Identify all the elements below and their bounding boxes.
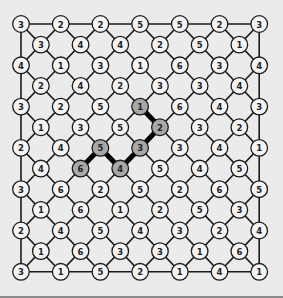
node-number: 6 — [217, 185, 223, 195]
number-node[interactable]: 2 — [172, 181, 189, 198]
number-node[interactable]: 3 — [251, 98, 268, 115]
number-node[interactable]: 4 — [211, 264, 228, 281]
number-node[interactable]: 5 — [112, 119, 129, 136]
node-number: 2 — [58, 102, 64, 112]
number-node[interactable]: 6 — [172, 57, 189, 74]
number-node[interactable]: 2 — [92, 16, 109, 33]
number-node[interactable]: 5 — [132, 181, 149, 198]
node-number: 5 — [256, 185, 262, 195]
number-node[interactable]: 4 — [191, 160, 208, 177]
node-number: 2 — [97, 185, 103, 195]
number-node[interactable]: 4 — [211, 140, 228, 157]
number-node[interactable]: 4 — [251, 57, 268, 74]
number-node[interactable]: 3 — [251, 16, 268, 33]
number-node[interactable]: 1 — [231, 36, 248, 53]
number-node[interactable]: 6 — [52, 181, 69, 198]
path-node[interactable]: 5 — [92, 140, 109, 157]
number-node[interactable]: 2 — [231, 119, 248, 136]
number-node[interactable]: 4 — [72, 78, 89, 95]
number-node[interactable]: 1 — [52, 57, 69, 74]
number-node[interactable]: 4 — [33, 160, 50, 177]
number-node[interactable]: 5 — [92, 98, 109, 115]
path-node[interactable]: 4 — [112, 160, 129, 177]
number-node[interactable]: 1 — [132, 57, 149, 74]
number-node[interactable]: 5 — [152, 160, 169, 177]
number-node[interactable]: 4 — [112, 36, 129, 53]
number-node[interactable]: 3 — [172, 222, 189, 239]
number-node[interactable]: 1 — [33, 243, 50, 260]
number-node[interactable]: 3 — [152, 243, 169, 260]
node-number: 4 — [217, 267, 223, 277]
number-node[interactable]: 5 — [251, 181, 268, 198]
number-node[interactable]: 2 — [13, 222, 30, 239]
number-node[interactable]: 1 — [52, 264, 69, 281]
path-node[interactable]: 2 — [152, 119, 169, 136]
number-node[interactable]: 4 — [251, 222, 268, 239]
node-number: 3 — [157, 81, 163, 91]
number-node[interactable]: 6 — [231, 243, 248, 260]
number-node[interactable]: 2 — [211, 16, 228, 33]
number-node[interactable]: 1 — [251, 140, 268, 157]
number-node[interactable]: 6 — [72, 243, 89, 260]
number-node[interactable]: 3 — [211, 57, 228, 74]
number-node[interactable]: 3 — [112, 243, 129, 260]
number-node[interactable]: 4 — [72, 36, 89, 53]
node-number: 3 — [38, 40, 44, 50]
number-node[interactable]: 5 — [231, 160, 248, 177]
node-number: 3 — [117, 247, 123, 257]
number-node[interactable]: 2 — [132, 264, 149, 281]
number-node[interactable]: 5 — [172, 16, 189, 33]
number-node[interactable]: 5 — [132, 16, 149, 33]
number-node[interactable]: 3 — [72, 119, 89, 136]
path-node[interactable]: 6 — [72, 160, 89, 177]
number-node[interactable]: 3 — [191, 78, 208, 95]
number-node[interactable]: 3 — [13, 181, 30, 198]
number-node[interactable]: 5 — [92, 264, 109, 281]
number-node[interactable]: 1 — [33, 202, 50, 219]
number-node[interactable]: 2 — [52, 16, 69, 33]
number-node[interactable]: 6 — [211, 181, 228, 198]
number-node[interactable]: 1 — [172, 264, 189, 281]
number-node[interactable]: 2 — [92, 181, 109, 198]
number-node[interactable]: 2 — [152, 202, 169, 219]
number-node[interactable]: 4 — [211, 98, 228, 115]
number-node[interactable]: 1 — [33, 119, 50, 136]
path-node[interactable]: 1 — [132, 98, 149, 115]
number-node[interactable]: 3 — [13, 16, 30, 33]
number-node[interactable]: 3 — [13, 264, 30, 281]
number-node[interactable]: 4 — [52, 222, 69, 239]
node-number: 3 — [18, 185, 24, 195]
number-node[interactable]: 3 — [172, 140, 189, 157]
number-node[interactable]: 1 — [191, 243, 208, 260]
node-number: 6 — [78, 247, 84, 257]
node-number: 2 — [38, 81, 44, 91]
number-node[interactable]: 3 — [33, 36, 50, 53]
number-node[interactable]: 3 — [13, 98, 30, 115]
number-node[interactable]: 2 — [211, 222, 228, 239]
number-node[interactable]: 6 — [172, 98, 189, 115]
node-number: 1 — [137, 102, 143, 112]
number-node[interactable]: 2 — [152, 36, 169, 53]
number-node[interactable]: 5 — [92, 222, 109, 239]
number-node[interactable]: 5 — [191, 202, 208, 219]
number-node[interactable]: 3 — [191, 119, 208, 136]
number-node[interactable]: 2 — [52, 98, 69, 115]
number-node[interactable]: 5 — [191, 36, 208, 53]
number-node[interactable]: 4 — [231, 78, 248, 95]
node-number: 2 — [117, 81, 123, 91]
number-node[interactable]: 2 — [13, 140, 30, 157]
node-number: 4 — [137, 226, 143, 236]
number-node[interactable]: 3 — [231, 202, 248, 219]
number-node[interactable]: 6 — [72, 202, 89, 219]
number-node[interactable]: 4 — [132, 222, 149, 239]
number-node[interactable]: 4 — [52, 140, 69, 157]
number-node[interactable]: 1 — [251, 264, 268, 281]
number-node[interactable]: 3 — [152, 78, 169, 95]
number-node[interactable]: 2 — [33, 78, 50, 95]
number-node[interactable]: 3 — [92, 57, 109, 74]
number-node[interactable]: 2 — [112, 78, 129, 95]
number-node[interactable]: 1 — [112, 202, 129, 219]
path-node[interactable]: 3 — [132, 140, 149, 157]
node-number: 4 — [117, 164, 123, 174]
number-node[interactable]: 4 — [13, 57, 30, 74]
